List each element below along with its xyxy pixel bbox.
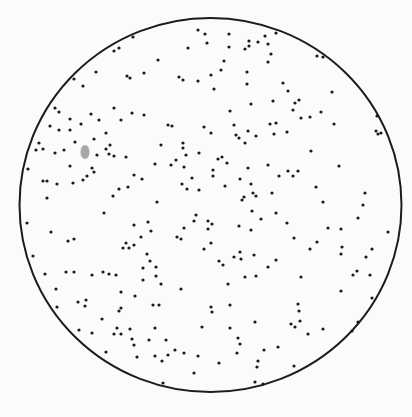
dot: [175, 235, 178, 238]
dot: [94, 70, 97, 73]
dot: [166, 353, 169, 356]
dot: [203, 32, 206, 35]
dot: [243, 275, 246, 278]
dot: [130, 111, 133, 114]
dot: [263, 34, 266, 37]
dot: [306, 332, 309, 335]
dot: [216, 157, 219, 160]
dot: [238, 250, 241, 253]
dot: [57, 128, 60, 131]
dot: [72, 77, 75, 80]
dot: [181, 141, 184, 144]
dot: [309, 149, 312, 152]
dot: [55, 305, 58, 308]
dot: [140, 177, 143, 180]
dot: [356, 216, 359, 219]
dot: [72, 270, 75, 273]
background: [0, 0, 412, 417]
dot: [330, 90, 333, 93]
dot: [132, 173, 135, 176]
dot: [266, 163, 269, 166]
dot: [196, 354, 199, 357]
dot: [153, 326, 156, 329]
dot: [291, 108, 294, 111]
dot: [228, 109, 231, 112]
dot: [210, 310, 213, 313]
dot: [240, 198, 243, 201]
dot: [156, 58, 159, 61]
dot: [149, 229, 152, 232]
dot: [228, 303, 231, 306]
dot: [49, 230, 52, 233]
dot: [159, 143, 162, 146]
dot: [245, 82, 248, 85]
dot: [256, 40, 259, 43]
dot: [223, 184, 226, 187]
dot: [326, 226, 329, 229]
dot: [155, 200, 158, 203]
dot: [132, 223, 135, 226]
dot: [73, 140, 76, 143]
dot: [292, 364, 295, 367]
dot: [174, 158, 177, 161]
dot: [202, 125, 205, 128]
dot: [114, 273, 117, 276]
dot: [66, 239, 69, 242]
dot: [45, 196, 48, 199]
dot: [89, 112, 92, 115]
dot: [180, 182, 183, 185]
dot: [104, 147, 107, 150]
scatter-circle-figure: [0, 0, 412, 417]
dot: [209, 73, 212, 76]
dot: [119, 118, 122, 121]
dot: [160, 359, 163, 362]
dot: [182, 226, 185, 229]
dot: [238, 177, 241, 180]
dot: [169, 163, 172, 166]
dot: [281, 81, 284, 84]
dot: [238, 342, 241, 345]
dot: [375, 114, 378, 117]
dot: [221, 263, 224, 266]
dot: [197, 151, 200, 154]
dot: [321, 200, 324, 203]
dot: [200, 325, 203, 328]
dot: [274, 31, 277, 34]
dot: [53, 106, 56, 109]
dot: [237, 136, 240, 139]
dot: [148, 259, 151, 262]
dot: [351, 273, 354, 276]
dot: [206, 227, 209, 230]
dot: [293, 101, 296, 104]
dot: [232, 123, 235, 126]
dot: [254, 134, 257, 137]
dot: [48, 124, 51, 127]
dot: [151, 303, 154, 306]
dot: [368, 273, 371, 276]
dot: [254, 194, 257, 197]
dot: [339, 227, 342, 230]
gray-smudge-mark: [81, 145, 90, 159]
dot: [25, 221, 28, 224]
dot: [272, 132, 275, 135]
dot: [237, 224, 240, 227]
dot: [92, 137, 95, 140]
dot: [285, 221, 288, 224]
dot: [220, 155, 223, 158]
dot: [321, 327, 324, 330]
dot: [254, 274, 257, 277]
dot: [277, 174, 280, 177]
dot: [121, 246, 124, 249]
dot: [142, 113, 145, 116]
dot: [286, 89, 289, 92]
dot: [139, 235, 142, 238]
dot: [196, 79, 199, 82]
dot: [153, 162, 156, 165]
dot: [266, 42, 269, 45]
dot: [202, 247, 205, 250]
dot: [210, 222, 213, 225]
dot: [126, 185, 129, 188]
dot: [90, 166, 93, 169]
dot: [108, 143, 111, 146]
dot: [54, 287, 57, 290]
